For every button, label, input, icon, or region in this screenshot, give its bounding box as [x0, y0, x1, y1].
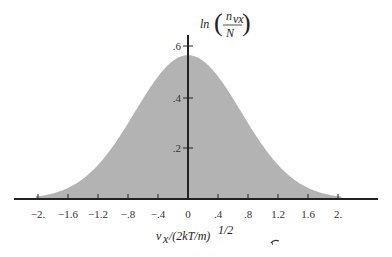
- svg-text:ln: ln: [200, 17, 209, 31]
- x-tick-label: 2.: [334, 208, 343, 220]
- svg-text:/(2kT/m): /(2kT/m): [168, 229, 210, 243]
- x-tick-label: −.4: [151, 208, 166, 220]
- svg-text:(: (: [214, 8, 223, 37]
- x-tick-label: −2.: [31, 208, 46, 220]
- svg-text:x: x: [162, 232, 169, 246]
- svg-text:1/2: 1/2: [218, 223, 233, 237]
- x-tick-label: .4: [214, 208, 223, 220]
- x-tick-label: 1.2: [271, 208, 285, 220]
- y-axis-title: ln ( n vx N ): [200, 8, 251, 40]
- x-tick-label: −1.2: [88, 208, 108, 220]
- scan-artifact: [271, 240, 279, 244]
- svg-text:n: n: [226, 9, 232, 23]
- x-axis-title: v x /(2kT/m) 1/2: [156, 223, 233, 246]
- x-tick-label: 0: [185, 208, 191, 220]
- x-tick-label: .8: [244, 208, 253, 220]
- y-tick-label: .6: [173, 40, 182, 52]
- x-tick-label: −1.6: [58, 208, 78, 220]
- svg-text:N: N: [225, 26, 235, 40]
- svg-text:v: v: [156, 229, 162, 243]
- chart-canvas: −2.−1.6−1.2−.8−.40.4.81.21.62. .2.4.6 ln…: [0, 0, 392, 257]
- svg-text:): ): [242, 8, 251, 37]
- y-tick-label: .4: [173, 92, 182, 104]
- y-tick-label: .2: [173, 142, 181, 154]
- x-tick-label: 1.6: [301, 208, 315, 220]
- x-tick-label: −.8: [121, 208, 136, 220]
